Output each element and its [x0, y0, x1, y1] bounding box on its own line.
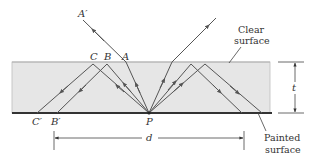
painted-surface-label-2: surface — [265, 144, 301, 155]
label-c: C — [90, 51, 98, 62]
point-p — [147, 111, 150, 114]
painted-surface-label-1: Painted — [264, 132, 300, 143]
painted-surface-leader — [258, 113, 266, 131]
optics-diagram: A′ C B A C′ B′ P d t Clear surface Paint… — [0, 0, 313, 161]
label-a: A — [121, 51, 129, 62]
label-t: t — [292, 82, 297, 93]
label-d: d — [146, 132, 152, 143]
label-b: B — [103, 51, 111, 62]
label-c-prime: C′ — [32, 116, 43, 127]
label-b-prime: B′ — [50, 116, 61, 127]
label-p: P — [145, 116, 153, 127]
label-a-prime: A′ — [77, 8, 88, 19]
clear-surface-label-2: surface — [234, 35, 270, 46]
clear-surface-leader — [229, 47, 241, 63]
clear-surface-label-1: Clear — [238, 24, 265, 35]
